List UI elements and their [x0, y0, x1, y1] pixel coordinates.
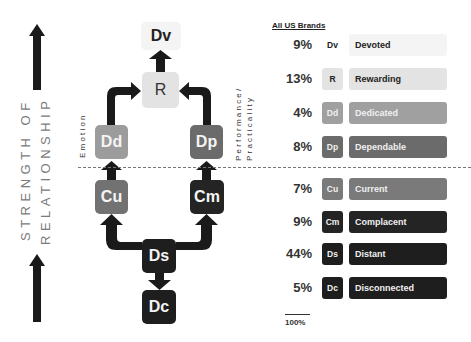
- table-row: 9%DvDevoted: [272, 33, 452, 57]
- arrow-r-to-dv-icon: [149, 50, 172, 72]
- node-complacent: Cm: [190, 180, 224, 214]
- row-percent: 9%: [272, 214, 312, 229]
- row-code-badge: Dp: [322, 136, 343, 158]
- row-segment-label: Disconnected: [349, 277, 447, 299]
- row-code-badge: Cm: [322, 211, 343, 233]
- row-percent: 8%: [272, 139, 312, 154]
- row-code-badge: Cu: [322, 178, 343, 200]
- row-segment-label: Dependable: [349, 136, 447, 158]
- node-dependable: Dp: [190, 125, 223, 159]
- row-code-badge: Dd: [322, 102, 343, 124]
- emotion-divider-line: [78, 167, 471, 168]
- strength-axis-label: STRENGTH OF RELATIONSHIP: [18, 95, 58, 245]
- row-segment-label: Devoted: [349, 34, 447, 56]
- row-segment-label: Current: [349, 178, 447, 200]
- axis-label-line1: STRENGTH OF: [18, 98, 33, 241]
- row-code-badge: R: [322, 68, 343, 90]
- emotion-label: Emotion: [78, 113, 87, 158]
- practicality-label-line2: Practicality: [245, 96, 254, 161]
- row-percent: 7%: [272, 181, 312, 196]
- row-segment-label: Rewarding: [349, 68, 447, 90]
- total-value: 100%: [285, 318, 305, 327]
- strength-arrow-top-icon: [29, 24, 45, 90]
- arrow-ds-to-cu-icon: [100, 214, 142, 250]
- table-row: 5%DcDisconnected: [272, 276, 452, 300]
- row-segment-label: Complacent: [349, 211, 447, 233]
- table-header: All US Brands: [272, 21, 325, 30]
- row-percent: 4%: [272, 105, 312, 120]
- row-segment-label: Distant: [349, 243, 447, 265]
- arrow-dd-to-r-icon: [107, 82, 141, 125]
- row-code-badge: Dc: [322, 277, 343, 299]
- table-row: 7%CuCurrent: [272, 177, 452, 201]
- node-rewarding: R: [142, 72, 179, 108]
- node-distant: Ds: [142, 239, 176, 273]
- row-percent: 9%: [272, 37, 312, 52]
- row-percent: 13%: [272, 71, 312, 86]
- strength-arrow-bottom-icon: [29, 254, 45, 322]
- arrow-cm-to-dp-icon: [196, 161, 217, 180]
- row-code-badge: Ds: [322, 243, 343, 265]
- axis-label-line2: RELATIONSHIP: [38, 97, 53, 245]
- table-row: 44%DsDistant: [272, 242, 452, 266]
- node-disconnected: Dc: [142, 290, 176, 324]
- node-current: Cu: [95, 180, 128, 214]
- table-row: 8%DpDependable: [272, 135, 452, 159]
- row-percent: 5%: [272, 280, 312, 295]
- node-devoted: Dv: [141, 22, 181, 50]
- node-dedicated: Dd: [95, 125, 128, 159]
- row-percent: 44%: [272, 246, 312, 261]
- arrow-dp-to-r-icon: [179, 82, 211, 125]
- arrow-cu-to-dd-icon: [101, 161, 122, 180]
- performance-label-line1: Performance/: [234, 87, 243, 161]
- row-code-badge: Dv: [322, 34, 343, 56]
- total-rule: [285, 314, 310, 315]
- arrow-ds-to-dc-icon: [148, 272, 171, 290]
- arrow-ds-to-cm-icon: [176, 214, 218, 250]
- row-segment-label: Dedicated: [349, 102, 447, 124]
- table-row: 4%DdDedicated: [272, 101, 452, 125]
- table-row: 9%CmComplacent: [272, 210, 452, 234]
- table-row: 13%RRewarding: [272, 67, 452, 91]
